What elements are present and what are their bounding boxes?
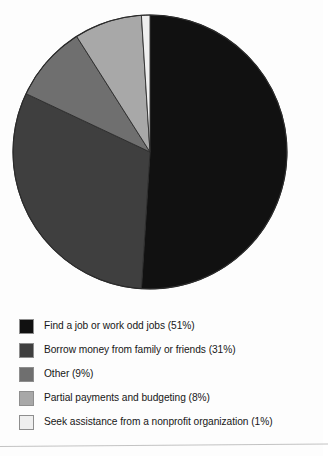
legend-item[interactable]: Partial payments and budgeting (8%) — [19, 386, 309, 410]
legend-item-label: Seek assistance from a nonprofit organiz… — [44, 416, 273, 428]
legend-swatch-icon — [19, 415, 34, 430]
legend-item[interactable]: Borrow money from family or friends (31%… — [19, 338, 309, 362]
legend-item-label: Find a job or work odd jobs (51%) — [44, 320, 195, 332]
legend-swatch-icon — [19, 391, 34, 406]
pie-chart — [0, 0, 323, 305]
legend-item[interactable]: Seek assistance from a nonprofit organiz… — [19, 410, 309, 434]
legend-item-label: Other (9%) — [44, 368, 93, 380]
legend-swatch-icon — [19, 343, 34, 358]
pie-slice-group — [13, 15, 287, 289]
pie-chart-svg — [0, 0, 323, 305]
pie-slice[interactable] — [141, 15, 287, 289]
legend-item-label: Borrow money from family or friends (31%… — [44, 344, 236, 356]
legend: Find a job or work odd jobs (51%) Borrow… — [19, 314, 309, 434]
legend-item-label: Partial payments and budgeting (8%) — [44, 392, 210, 404]
legend-item[interactable]: Other (9%) — [19, 362, 309, 386]
legend-swatch-icon — [19, 319, 34, 334]
legend-item[interactable]: Find a job or work odd jobs (51%) — [19, 314, 309, 338]
legend-swatch-icon — [19, 367, 34, 382]
